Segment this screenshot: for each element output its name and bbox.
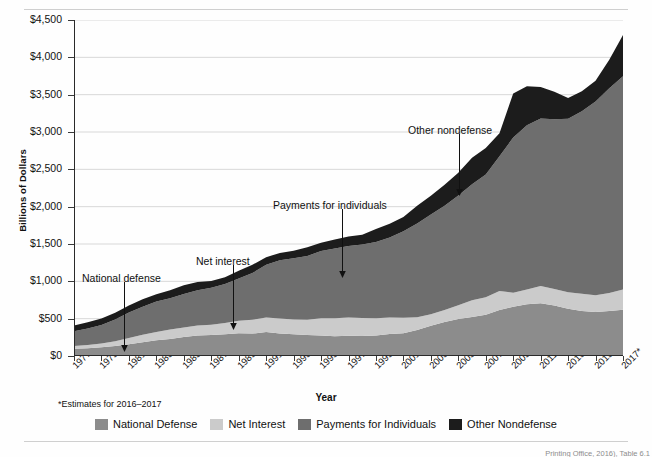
y-axis-tick-label: $4,500 — [4, 14, 62, 24]
annotation-label-net-interest: Net interest — [196, 255, 250, 267]
legend-item: Other Nondefense — [449, 418, 557, 430]
plot-area — [74, 20, 623, 356]
y-axis-tick-label: $1,500 — [4, 238, 62, 248]
annotation-arrow-other-nondefense — [454, 134, 465, 198]
y-axis-tick-label: $1,000 — [4, 275, 62, 285]
y-axis-tick-label: $500 — [4, 313, 62, 323]
annotation-label-other-nondefense: Other nondefense — [408, 124, 492, 136]
legend-item: Payments for Individuals — [298, 418, 436, 430]
annotation-label-payments-for-individuals: Payments for individuals — [273, 199, 387, 211]
legend-swatch-icon — [298, 419, 311, 430]
y-axis-tick-label: $2,000 — [4, 201, 62, 211]
legend-item-label: Payments for Individuals — [316, 418, 436, 430]
y-axis-tick-label: $0 — [4, 350, 62, 360]
footnote: *Estimates for 2016–2017 — [58, 399, 162, 409]
legend-swatch-icon — [95, 419, 108, 430]
annotation-arrow-payments-for-individuals — [337, 209, 348, 280]
y-axis-tick-label: $3,500 — [4, 89, 62, 99]
figure-canvas: Billions of Dollars $0$500$1,000$1,500$2… — [0, 0, 652, 457]
legend: National DefenseNet InterestPayments for… — [0, 418, 652, 430]
legend-item: Net Interest — [210, 418, 285, 430]
legend-item: National Defense — [95, 418, 197, 430]
annotation-arrow-national-defense — [119, 282, 130, 354]
y-axis-tick-label: $3,000 — [4, 126, 62, 136]
stacked-area-chart — [74, 20, 623, 356]
bottom-divider — [24, 441, 628, 442]
y-axis-tick-label: $4,000 — [4, 51, 62, 61]
top-divider — [24, 9, 628, 10]
legend-item-label: Net Interest — [228, 418, 285, 430]
y-axis-title: Billions of Dollars — [17, 131, 28, 251]
y-axis-tick-label: $2,500 — [4, 163, 62, 173]
annotation-arrow-net-interest — [228, 265, 239, 332]
legend-item-label: National Defense — [113, 418, 197, 430]
legend-item-label: Other Nondefense — [467, 418, 557, 430]
source-note: Printing Office, 2016), Table 6.1 — [330, 449, 650, 457]
legend-swatch-icon — [449, 419, 462, 430]
legend-swatch-icon — [210, 419, 223, 430]
